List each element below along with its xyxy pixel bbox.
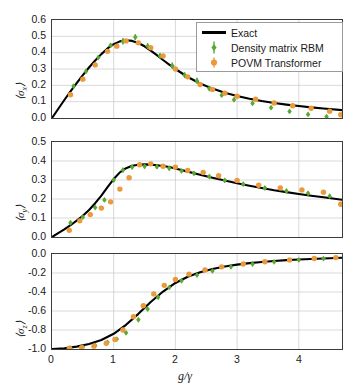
ytick-x-4: 0.2	[18, 78, 46, 90]
panel-sigma-y: ⟨σy⟩ 0.5 0.4 0.3 0.2 0.1 0.0	[0, 126, 358, 246]
legend-label-rbm: Density matrix RBM	[231, 42, 324, 54]
ytick-y-1: 0.4	[18, 154, 46, 166]
ytick-y-0: 0.5	[18, 135, 46, 147]
legend-label-povm: POVM Transformer	[231, 57, 321, 69]
legend-label-exact: Exact	[231, 27, 257, 39]
ytick-z-3: -0.6	[10, 304, 46, 316]
ytick-z-2: -0.4	[10, 285, 46, 297]
ytick-x-6: 0.0	[18, 111, 46, 123]
legend-item-rbm[interactable]: Density matrix RBM	[201, 40, 337, 55]
xtick-2: 2	[165, 353, 185, 365]
ytick-x-2: 0.4	[18, 45, 46, 57]
ytick-z-1: -0.2	[10, 266, 46, 278]
xaxis-label: g/γ	[178, 369, 192, 384]
xtick-3: 3	[227, 353, 247, 365]
ylabel-close-y: ⟩	[14, 205, 26, 209]
legend-key-exact-line	[201, 25, 227, 40]
panel-sigma-z-frame	[51, 253, 343, 350]
legend-key-rbm-diamond-icon	[201, 40, 227, 55]
panel-sigma-y-plot	[52, 142, 342, 237]
xtick-1: 1	[103, 353, 123, 365]
ytick-y-4: 0.1	[18, 211, 46, 223]
ytick-z-0: 0.0	[10, 247, 46, 259]
ytick-x-5: 0.1	[18, 94, 46, 106]
panel-sigma-y-frame	[51, 141, 343, 238]
xtick-0: 0	[41, 353, 61, 365]
ytick-z-4: -0.8	[10, 323, 46, 335]
ytick-x-0: 0.6	[18, 13, 46, 25]
legend-item-povm[interactable]: POVM Transformer	[201, 55, 337, 70]
panel-sigma-z-plot	[52, 254, 342, 349]
xtick-4: 4	[289, 353, 309, 365]
ytick-y-3: 0.2	[18, 192, 46, 204]
legend-item-exact[interactable]: Exact	[201, 25, 337, 40]
legend-key-povm-circle-icon	[201, 55, 227, 70]
ytick-y-2: 0.3	[18, 173, 46, 185]
ytick-x-3: 0.3	[18, 62, 46, 74]
ytick-x-1: 0.5	[18, 29, 46, 41]
panel-sigma-z: ⟨σz⟩ 0.0 -0.2 -0.4 -0.6 -0.8 -1.0 0 1 2 …	[0, 240, 358, 390]
figure-sigma-expectation-values: ⟨σx⟩ 0.6 0.5 0.4 0.3 0.2 0.1 0.0 ⟨σy⟩ 0.…	[0, 0, 358, 390]
legend: Exact Density matrix RBM POVM Transforme…	[196, 22, 343, 72]
